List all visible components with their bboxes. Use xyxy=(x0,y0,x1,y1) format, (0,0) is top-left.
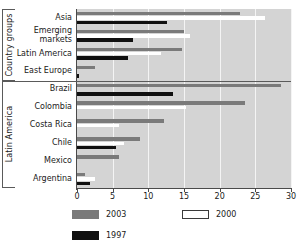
legend-label: 2003 xyxy=(106,210,126,219)
group-spine-latin-america: Latin America xyxy=(2,81,15,188)
legend-swatch xyxy=(182,210,209,219)
group-divider xyxy=(77,81,291,82)
bar xyxy=(77,38,133,41)
bar xyxy=(77,106,186,109)
category-label: Chile xyxy=(52,139,72,148)
legend-label: 1997 xyxy=(106,231,126,240)
legend-item-2003[interactable]: 2003 xyxy=(72,210,126,219)
gridline xyxy=(291,9,292,188)
category-label: Asia xyxy=(55,14,72,23)
legend-item-2000[interactable]: 2000 xyxy=(182,210,236,219)
bar-chart: Country groups Latin America AsiaEmergin… xyxy=(0,0,306,245)
legend-swatch xyxy=(72,210,99,219)
group-spine-label: Country groups xyxy=(5,13,14,76)
category-label: Brazil xyxy=(50,85,72,94)
bar xyxy=(77,30,184,33)
bar xyxy=(77,101,245,104)
bar xyxy=(77,21,167,24)
bar xyxy=(77,142,124,145)
bar xyxy=(77,56,128,59)
legend-item-1997[interactable]: 1997 xyxy=(72,231,126,240)
bar xyxy=(77,146,116,149)
bar xyxy=(77,84,281,87)
category-label: Colombia xyxy=(34,103,72,112)
bar xyxy=(77,182,90,185)
bar xyxy=(77,119,164,122)
gridline xyxy=(220,9,221,188)
category-label: Latin America xyxy=(17,50,72,59)
category-axis-labels: AsiaEmerging marketsLatin AmericaEast Eu… xyxy=(15,9,75,188)
y-axis-line xyxy=(76,9,77,190)
bar xyxy=(77,74,79,77)
gridline xyxy=(255,9,256,188)
legend-swatch xyxy=(72,231,99,240)
bar xyxy=(77,92,173,95)
category-label: Mexico xyxy=(44,157,72,166)
group-spine-label: Latin America xyxy=(5,106,14,163)
bar xyxy=(77,48,182,51)
group-divider-label-column xyxy=(15,81,77,82)
top-blank-strip xyxy=(0,0,306,8)
group-spine-country-groups: Country groups xyxy=(2,9,15,81)
bar xyxy=(77,34,190,37)
bar xyxy=(77,66,95,69)
category-label: Emerging markets xyxy=(34,27,72,44)
chart-legend: 200320001997 xyxy=(0,200,306,245)
category-label: Costa Rica xyxy=(30,121,72,130)
category-label: East Europe xyxy=(24,67,72,76)
bar xyxy=(77,124,119,127)
bar xyxy=(77,155,119,158)
bar xyxy=(77,173,85,176)
bar xyxy=(77,16,265,19)
bar xyxy=(77,177,95,180)
legend-label: 2000 xyxy=(216,210,236,219)
category-label: Argentina xyxy=(33,175,72,184)
bar xyxy=(77,12,240,15)
bar xyxy=(77,137,140,140)
bar xyxy=(77,52,161,55)
plot-area xyxy=(77,9,291,188)
